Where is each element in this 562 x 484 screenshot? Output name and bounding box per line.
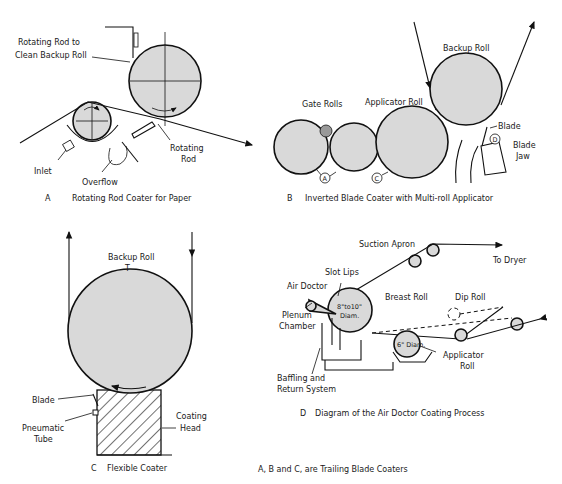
coater-diagram-figure: Rotating Rod to Clean Backup Roll Inlet …	[0, 0, 562, 484]
roll-marker-t: T	[124, 264, 130, 273]
panel-a-caption: Rotating Rod Coater for Paper	[72, 194, 192, 203]
pneumatic-tube	[93, 410, 98, 415]
leader-blade	[58, 395, 93, 399]
label-blade-jaw-1: Blade	[513, 141, 536, 150]
label-plenum-2: Chamber	[279, 322, 316, 331]
dip-roll-dashed	[448, 308, 460, 320]
label-blade: Blade	[32, 396, 55, 405]
panel-c-caption: Flexible Coater	[107, 464, 168, 473]
label-blade-jaw-2: Jaw	[515, 152, 530, 161]
applicator-roll	[376, 106, 448, 178]
label-inlet: Inlet	[34, 167, 52, 176]
gate-roll-left	[274, 120, 328, 174]
leader-blade	[490, 126, 497, 128]
label-breast-diam-1: 8"to10"	[337, 303, 362, 311]
label-blade: Blade	[498, 122, 521, 131]
leader-baffling	[312, 348, 320, 374]
coating-pool	[320, 125, 332, 137]
label-pneumatic-2: Tube	[33, 435, 53, 444]
panel-a-rotating-rod-coater: Rotating Rod to Clean Backup Roll Inlet …	[15, 27, 252, 203]
blade-jaw	[481, 142, 506, 175]
web-incoming	[414, 22, 430, 88]
leader-pneumatic-tube	[65, 413, 92, 421]
marker-d-text: D	[493, 136, 498, 144]
label-breast-roll: Breast Roll	[385, 293, 428, 302]
panel-b-letter: B	[287, 194, 293, 203]
label-pneumatic-1: Pneumatic	[22, 424, 64, 433]
label-plenum-1: Plenum	[282, 311, 312, 320]
backup-roll	[430, 53, 502, 125]
panel-b-caption: Inverted Blade Coater with Multi-roll Ap…	[305, 194, 494, 203]
paper-web	[20, 102, 252, 145]
doctor-blade	[122, 142, 138, 162]
panel-b-inverted-blade-coater: A C D Backup Roll Gate Rolls Applicator …	[274, 22, 536, 203]
overflow-curve	[109, 146, 127, 165]
leader-applicator	[420, 346, 436, 352]
label-applicator-roll: Applicator Roll	[365, 98, 423, 107]
dashed-web-path	[372, 318, 512, 333]
label-coating-1: Coating	[176, 412, 207, 421]
marker-a-text: A	[323, 175, 328, 183]
label-gate-rolls: Gate Rolls	[302, 100, 342, 109]
dip-roll	[455, 329, 467, 341]
label-backup-roll: Backup Roll	[443, 44, 489, 53]
panel-a-letter: A	[45, 194, 51, 203]
label-rotating-rod-clean-2: Clean Backup Roll	[15, 51, 87, 60]
panel-d-air-doctor-process: 8"to10" Diam. 6" Diam. Suction Apron To …	[277, 240, 540, 418]
label-slot-lips: Slot Lips	[325, 268, 359, 277]
return-line	[325, 360, 393, 370]
leader-marker-c	[382, 172, 388, 175]
label-baffling-1: Baffling and	[277, 374, 325, 383]
leader-marker-a-2	[330, 172, 336, 176]
label-baffling-2: Return System	[277, 385, 336, 394]
label-rotating-rod-clean-1: Rotating Rod to	[18, 38, 80, 47]
leader-rotating-rod-clean	[92, 57, 130, 62]
backup-roll	[129, 32, 201, 126]
label-applicator-2: Roll	[460, 362, 475, 371]
leader-inlet	[58, 150, 66, 160]
label-breast-diam-2: Diam.	[340, 312, 359, 320]
scraper-bracket	[105, 27, 133, 58]
pan-wall-right	[471, 146, 478, 183]
coating-head	[97, 390, 161, 455]
scraper-holder	[134, 33, 138, 47]
web-outgoing	[501, 22, 534, 105]
applicator-roll	[63, 102, 118, 151]
panel-d-letter: D	[300, 409, 306, 418]
label-rotating-rod-2: Rod	[181, 155, 196, 164]
backup-roll	[68, 269, 192, 393]
gate-roll-right	[330, 123, 378, 171]
apron-roll-2	[427, 244, 439, 256]
label-rotating-rod-1: Rotating	[170, 144, 204, 153]
label-applicator-1: Applicator	[443, 351, 484, 360]
panel-c-flexible-coater: T Backup Roll Blade Pneumatic Tube Coati…	[22, 232, 207, 473]
marker-c-text: C	[375, 175, 380, 183]
leader-overflow	[102, 160, 112, 172]
label-coating-2: Head	[180, 424, 201, 433]
label-suction-apron: Suction Apron	[359, 240, 415, 249]
label-applicator-diam: 6" Diam.	[397, 341, 425, 349]
label-backup-roll: Backup Roll	[108, 253, 154, 262]
panel-c-letter: C	[91, 464, 97, 473]
leader-rotating-rod	[158, 124, 170, 140]
label-overflow: Overflow	[82, 178, 118, 187]
panel-d-caption: Diagram of the Air Doctor Coating Proces…	[315, 409, 484, 418]
label-air-doctor: Air Doctor	[287, 282, 328, 291]
blade	[482, 127, 487, 146]
label-to-dryer: To Dryer	[492, 256, 527, 265]
dip-roll-dashed-path	[460, 307, 503, 314]
label-dip-roll: Dip Roll	[455, 293, 486, 302]
rotating-rod-holder	[132, 122, 155, 138]
figure-footnote: A, B and C, are Trailing Blade Coaters	[258, 465, 408, 474]
pan-wall-left	[456, 140, 462, 183]
